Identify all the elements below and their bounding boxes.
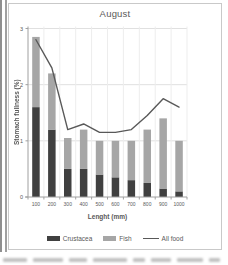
x-axis-title: Lenght (mm): [28, 213, 187, 220]
blurred-text-fragment: [177, 258, 203, 262]
page-edge-line-outer: [0, 0, 2, 252]
svg-text:800: 800: [143, 201, 152, 207]
legend-item-crustacea: Crustacea: [47, 235, 93, 242]
legend-label-all-food: All food: [162, 235, 184, 242]
chart-frame: August 012310020030040050060070080090010…: [8, 3, 222, 250]
blurred-caption-row: [3, 256, 228, 264]
svg-text:1000: 1000: [173, 201, 184, 207]
legend-label-fish: Fish: [119, 235, 131, 242]
svg-text:400: 400: [79, 201, 88, 207]
blurred-text-fragment: [209, 258, 220, 262]
svg-text:200: 200: [48, 201, 57, 207]
legend-label-crustacea: Crustacea: [63, 235, 93, 242]
page-edge-line-inner: [5, 0, 7, 252]
blurred-text-fragment: [33, 258, 63, 262]
fish-swatch-icon: [103, 236, 116, 241]
legend: Crustacea Fish All food: [9, 235, 221, 242]
svg-text:900: 900: [159, 201, 168, 207]
blurred-text-fragment: [69, 258, 87, 262]
svg-text:700: 700: [127, 201, 136, 207]
blurred-text-fragment: [133, 258, 145, 262]
legend-item-fish: Fish: [103, 235, 131, 242]
blurred-text-fragment: [151, 258, 171, 262]
svg-text:100: 100: [32, 201, 41, 207]
svg-text:300: 300: [64, 201, 73, 207]
crustacea-swatch-icon: [47, 236, 60, 241]
legend-item-all-food: All food: [143, 235, 184, 242]
blurred-text-fragment: [3, 258, 27, 262]
all-food-line-swatch-icon: [143, 238, 159, 240]
blurred-text-fragment: [93, 258, 127, 262]
svg-text:600: 600: [111, 201, 120, 207]
y-axis-title: Stomach fullness (%): [10, 28, 22, 197]
svg-text:500: 500: [95, 201, 104, 207]
